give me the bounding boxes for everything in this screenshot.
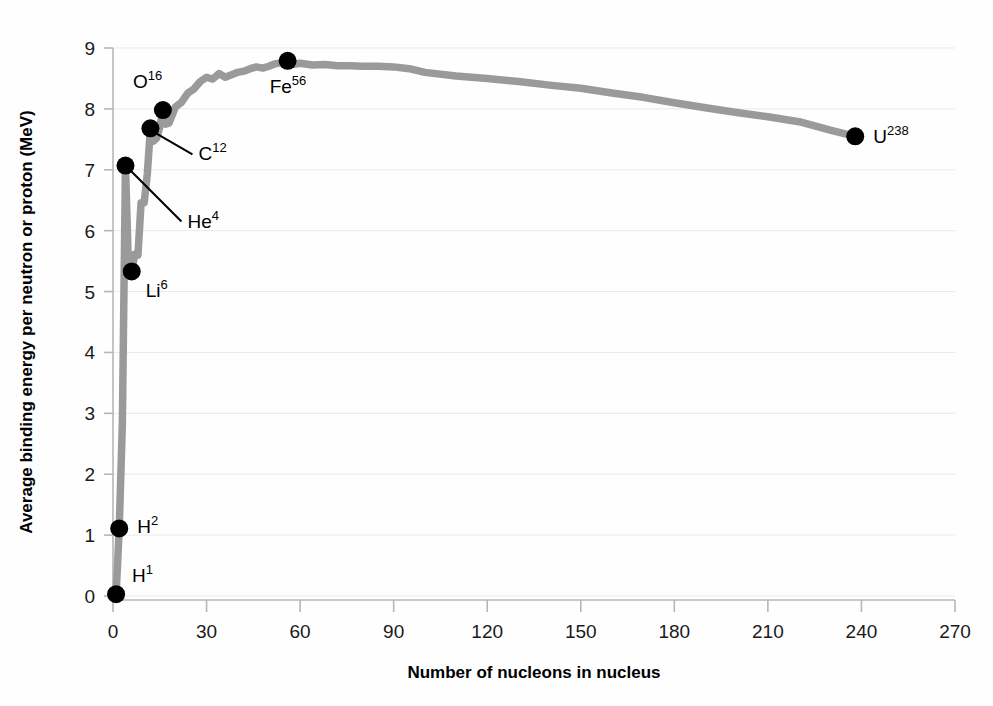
element-symbol: Fe	[270, 76, 292, 97]
element-symbol: U	[873, 126, 887, 147]
marker-O16	[154, 101, 172, 119]
point-label-O16: O16	[133, 68, 162, 92]
mass-number: 16	[148, 68, 162, 83]
point-label-Fe56: Fe56	[270, 73, 307, 97]
y-tick-label-0: 0	[84, 586, 95, 607]
data-point-labels: H1H2Li6He4C12O16Fe56U238	[132, 68, 909, 586]
mass-number: 2	[151, 513, 158, 528]
x-tick-label-270: 270	[939, 621, 971, 642]
x-tick-label-240: 240	[846, 621, 878, 642]
mass-number: 6	[161, 277, 168, 292]
x-axis-title: Number of nucleons in nucleus	[407, 663, 660, 682]
marker-Fe56	[279, 52, 297, 70]
y-tick-label-6: 6	[84, 221, 95, 242]
x-tick-label-90: 90	[383, 621, 404, 642]
mass-number: 1	[146, 562, 153, 577]
point-label-H2: H2	[137, 513, 158, 537]
y-tick-label-1: 1	[84, 525, 95, 546]
y-tick-label-9: 9	[84, 38, 95, 59]
marker-He4	[116, 157, 134, 175]
y-tick-label-7: 7	[84, 160, 95, 181]
element-symbol: H	[137, 516, 151, 537]
point-label-C12: C12	[198, 140, 226, 164]
y-axis-title: Average binding energy per neutron or pr…	[17, 110, 36, 533]
element-symbol: H	[132, 565, 146, 586]
element-symbol: He	[187, 211, 211, 232]
y-tick-label-5: 5	[84, 282, 95, 303]
data-curve	[116, 61, 855, 594]
mass-number: 4	[212, 208, 219, 223]
point-label-Li6: Li6	[146, 277, 168, 301]
y-tick-label-2: 2	[84, 464, 95, 485]
x-tick-label-150: 150	[565, 621, 597, 642]
element-symbol: C	[198, 143, 212, 164]
element-symbol: Li	[146, 280, 161, 301]
element-symbol: O	[133, 71, 148, 92]
marker-C12	[141, 119, 159, 137]
point-label-U238: U238	[873, 123, 908, 147]
y-tick-label-4: 4	[84, 342, 95, 363]
x-tick-label-210: 210	[752, 621, 784, 642]
y-tick-label-8: 8	[84, 99, 95, 120]
mass-number: 238	[887, 123, 909, 138]
leader-line-C12	[154, 132, 192, 154]
x-axis: 0306090120150180210240270	[108, 600, 971, 642]
binding-energy-curve-chart: 0123456789 0306090120150180210240270 H1H…	[0, 0, 993, 706]
x-tick-label-60: 60	[290, 621, 311, 642]
x-tick-label-30: 30	[196, 621, 217, 642]
x-tick-label-120: 120	[471, 621, 503, 642]
data-point-markers	[107, 52, 864, 603]
marker-H1	[107, 585, 125, 603]
marker-H2	[110, 519, 128, 537]
marker-Li6	[123, 262, 141, 280]
point-label-He4: He4	[187, 208, 219, 232]
curve-path	[116, 61, 855, 594]
mass-number: 56	[292, 73, 306, 88]
x-tick-label-0: 0	[108, 621, 119, 642]
mass-number: 12	[212, 140, 226, 155]
x-tick-label-180: 180	[658, 621, 690, 642]
marker-U238	[846, 127, 864, 145]
point-label-H1: H1	[132, 562, 153, 586]
chart-canvas: 0123456789 0306090120150180210240270 H1H…	[0, 0, 993, 706]
y-tick-label-3: 3	[84, 403, 95, 424]
y-axis: 0123456789	[84, 38, 113, 607]
